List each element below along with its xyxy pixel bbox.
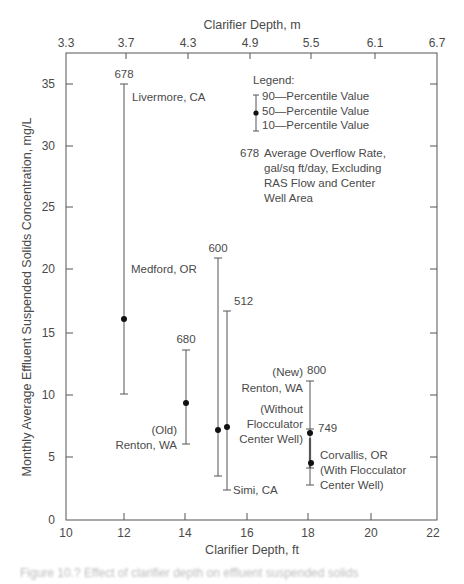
- corvallis-label-1: Corvallis, OR: [320, 449, 388, 461]
- new-renton-label-1: (New): [272, 366, 303, 378]
- svg-text:10: 10: [59, 526, 73, 540]
- svg-text:5.5: 5.5: [303, 36, 320, 50]
- livermore-label: Livermore, CA: [132, 91, 206, 103]
- y-axis-title: Monthly Average Effluent Suspended Solid…: [20, 118, 34, 477]
- svg-text:3.7: 3.7: [118, 36, 135, 50]
- svg-text:gal/sq ft/day, Excluding: gal/sq ft/day, Excluding: [264, 162, 381, 174]
- legend-errorbar-icon: [253, 95, 259, 131]
- errorbar-simi: [223, 311, 231, 490]
- without-flocculator-3: Center Well): [239, 433, 303, 445]
- svg-text:6.1: 6.1: [367, 36, 384, 50]
- svg-text:30: 30: [42, 139, 56, 153]
- svg-text:5: 5: [48, 450, 55, 464]
- corvallis-label-3: Center Well): [320, 479, 384, 491]
- errorbar-old-renton: [182, 350, 190, 444]
- svg-text:12: 12: [117, 526, 131, 540]
- figure-caption: Figure 10.? Effect of clarifier depth on…: [20, 566, 358, 584]
- errorbar-new-renton-corvallis: [306, 381, 314, 485]
- svg-text:678: 678: [240, 147, 259, 159]
- corvallis-label-2: (With Flocculator: [320, 464, 406, 476]
- new-renton-rate: 800: [307, 364, 326, 376]
- svg-text:90—Percentile Value: 90—Percentile Value: [262, 90, 369, 102]
- svg-text:16: 16: [240, 526, 254, 540]
- old-renton-rate: 680: [176, 333, 195, 345]
- simi-label: Simi, CA: [233, 484, 278, 496]
- svg-text:10—Percentile Value: 10—Percentile Value: [262, 119, 369, 131]
- svg-text:35: 35: [42, 77, 56, 91]
- svg-text:0: 0: [48, 513, 55, 527]
- rate-749: 749: [318, 422, 337, 434]
- svg-text:3.3: 3.3: [58, 36, 75, 50]
- svg-text:4.3: 4.3: [180, 36, 197, 50]
- svg-text:14: 14: [178, 526, 192, 540]
- svg-text:6.7: 6.7: [429, 36, 446, 50]
- old-renton-label-2: Renton, WA: [115, 439, 177, 451]
- svg-text:50—Percentile Value: 50—Percentile Value: [262, 105, 369, 117]
- old-renton-label-1: (Old): [151, 424, 177, 436]
- svg-text:10: 10: [42, 388, 56, 402]
- legend: Legend: 90—Percentile Value 50—Percentil…: [240, 74, 386, 204]
- livermore-rate: 678: [114, 68, 133, 80]
- errorbar-medford: [214, 258, 222, 476]
- svg-text:25: 25: [42, 200, 56, 214]
- svg-text:15: 15: [42, 326, 56, 340]
- svg-text:18: 18: [301, 526, 315, 540]
- x-axis-title: Clarifier Depth, ft: [205, 543, 299, 557]
- svg-text:Average Overflow Rate,: Average Overflow Rate,: [264, 147, 386, 159]
- errorbar-livermore: [120, 84, 128, 394]
- svg-text:20: 20: [364, 526, 378, 540]
- svg-text:RAS Flow and Center: RAS Flow and Center: [264, 177, 375, 189]
- svg-text:4.9: 4.9: [242, 36, 259, 50]
- without-flocculator-2: Flocculator: [247, 418, 303, 430]
- simi-rate: 512: [234, 295, 253, 307]
- new-renton-label-2: Renton, WA: [241, 382, 303, 394]
- svg-text:20: 20: [42, 262, 56, 276]
- medford-label: Medford, OR: [131, 263, 197, 275]
- x2-axis-ticks: 3.3 3.7 4.3 4.9 5.5 6.1 6.7: [58, 36, 446, 59]
- svg-text:Well Area: Well Area: [264, 192, 314, 204]
- medford-rate: 600: [208, 242, 227, 254]
- svg-text:Legend:: Legend:: [253, 74, 295, 86]
- chart: Clarifier Depth, m 3.3 3.7 4.3 4.9 5.5 6…: [0, 0, 464, 584]
- x2-axis-title: Clarifier Depth, m: [203, 18, 300, 32]
- x-axis-ticks: 10 12 14 16 18 20 22: [59, 513, 440, 540]
- svg-text:22: 22: [426, 526, 440, 540]
- without-flocculator-1: (Without: [260, 403, 304, 415]
